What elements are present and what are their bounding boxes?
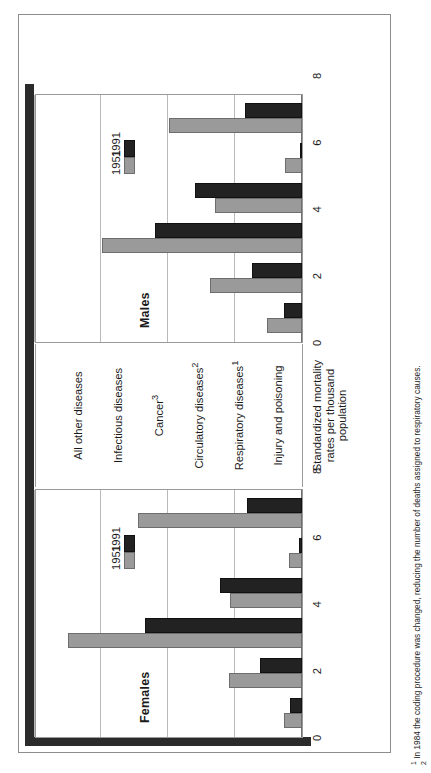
rotated-chart-wrapper: Females 1951 1991 Injury and poisoningRe… [25,22,385,746]
axis-ticks-males: 02468 [311,94,327,343]
legend-swatch-1991 [124,535,135,552]
bar-group [229,658,302,688]
panel-title-females: Females [138,672,152,723]
chart-shadow-top [25,84,34,746]
bar-1951 [215,198,302,213]
category-label: Cancer3 [151,395,166,436]
category-label: Circulatory diseases2 [191,363,206,469]
bar-1951 [284,713,302,728]
panel-title-males: Males [138,292,152,328]
bar-1991 [252,263,302,278]
bar-1991 [247,498,302,513]
bar-group [220,578,302,608]
legend-swatch-1951 [124,552,135,569]
bar-group [285,143,302,173]
axis-tick-label: 0 [311,735,323,741]
legend-label-1991: 1991 [110,527,122,552]
axis-tick-label: 2 [311,273,323,279]
legend-label-1991: 1991 [110,132,122,157]
bar-group [138,498,302,528]
footnote-1: 1 In 1984 the coding procedure was chang… [409,365,422,765]
axis-tick-label: 2 [311,668,323,674]
chart-stage: Females 1951 1991 Injury and poisoningRe… [25,22,385,746]
bar-1991 [300,143,302,158]
category-label: Injury and poisoning [272,365,284,465]
bar-1951 [289,553,302,568]
bar-group [267,303,302,333]
legend-swatch-1951 [124,157,135,174]
axis-ticks-females: 02468 [311,489,327,738]
bar-group [210,263,302,293]
plot-area-females: Females 1951 1991 [35,489,303,738]
axis-tick-label: 6 [311,535,323,541]
bar-1951 [229,673,302,688]
legend-swatch-1991 [124,140,135,157]
bar-group [195,183,302,213]
bar-1951 [102,238,302,253]
axis-tick-label: 4 [311,601,323,607]
bar-group [284,698,302,728]
bar-1951 [285,158,302,173]
bar-1991 [299,538,302,553]
bar-1991 [145,618,302,633]
chart-shadow-left [25,737,311,746]
axis-tick-label: 8 [311,73,323,79]
axis-tick-label: 4 [311,206,323,212]
bar-group [289,538,302,568]
bar-1951 [267,318,302,333]
bar-1991 [220,578,302,593]
category-label-strip: Injury and poisoningRespiratory diseases… [35,344,303,487]
bar-series-males [36,95,302,342]
bar-1951 [138,513,302,528]
bar-1951 [68,633,302,648]
bar-group [169,103,303,133]
footnote-2: 2 [419,761,431,765]
bar-1951 [210,278,302,293]
bar-1951 [230,593,302,608]
bar-1991 [260,658,302,673]
plot-area-males: Males 1951 1991 [35,94,303,343]
axis-caption: Standardized mortality rates per thousan… [311,347,349,484]
bar-1991 [284,303,302,318]
bar-1991 [195,183,302,198]
bar-1991 [245,103,302,118]
bar-group [102,223,302,253]
gridline-males [34,95,35,342]
bar-series-females [36,490,302,737]
category-label: Respiratory diseases1 [231,361,246,471]
category-label: All other diseases [72,371,84,459]
category-label: Infectious diseases [112,368,124,463]
gridline-females [34,490,35,737]
bar-group [68,618,302,648]
axis-tick-label: 0 [311,340,323,346]
axis-tick-label: 6 [311,140,323,146]
bar-1991 [155,223,302,238]
bar-1951 [169,118,303,133]
bar-1991 [290,698,302,713]
